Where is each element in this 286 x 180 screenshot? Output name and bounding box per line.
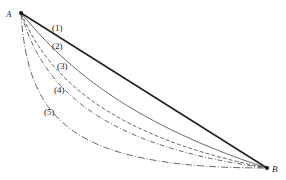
curves-diagram: A B (1) (2) (3) (4) (5) (0, 0, 286, 180)
curve-2-label: (2) (52, 41, 63, 51)
curve-3-label: (3) (57, 61, 68, 71)
point-b-label: B (272, 164, 278, 174)
curve-5-label: (5) (44, 107, 55, 117)
point-a-label: A (5, 9, 12, 19)
curve-4-label: (4) (54, 85, 65, 95)
point-a-marker (19, 11, 23, 15)
curve-1-label: (1) (52, 23, 63, 33)
point-b-marker (265, 166, 269, 170)
